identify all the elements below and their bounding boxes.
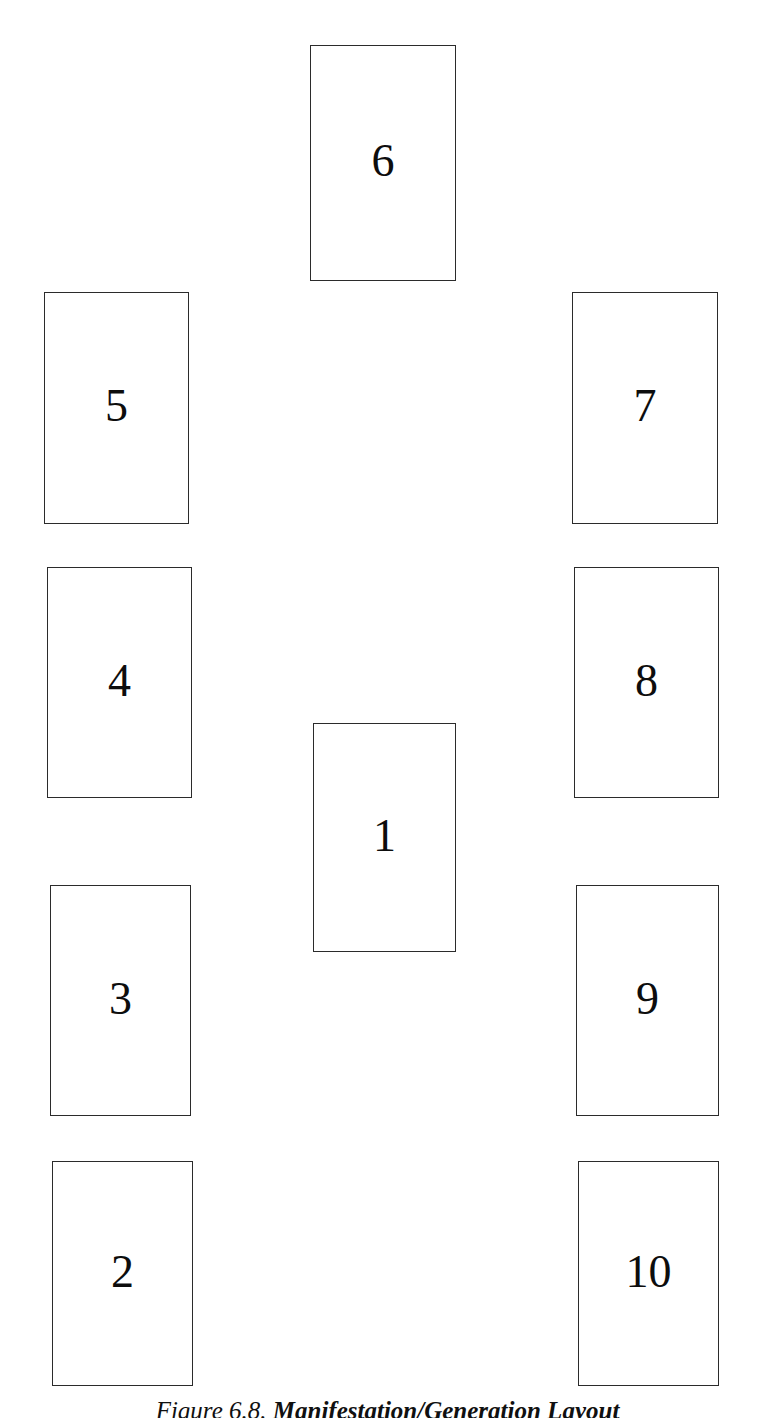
card-position-4[interactable]: 4 (47, 567, 192, 798)
card-number-label: 2 (111, 1249, 134, 1295)
card-position-10[interactable]: 10 (578, 1161, 719, 1386)
card-position-6[interactable]: 6 (310, 45, 456, 281)
card-number-label: 7 (634, 383, 657, 429)
card-position-1[interactable]: 1 (313, 723, 456, 952)
card-number-label: 8 (635, 658, 658, 704)
card-number-label: 1 (373, 813, 396, 859)
card-number-label: 6 (372, 138, 395, 184)
card-position-3[interactable]: 3 (50, 885, 191, 1116)
card-position-8[interactable]: 8 (574, 567, 719, 798)
figure-container: 6 5 7 4 8 1 3 9 2 10 Figure 6.8. Manifes… (0, 0, 775, 1418)
figure-caption-label: Figure 6.8. (156, 1397, 267, 1418)
card-position-9[interactable]: 9 (576, 885, 719, 1116)
card-number-label: 4 (108, 658, 131, 704)
card-number-label: 10 (626, 1249, 672, 1295)
card-position-7[interactable]: 7 (572, 292, 718, 524)
figure-caption-title: Manifestation/Generation Layout (273, 1397, 620, 1418)
card-number-label: 3 (109, 976, 132, 1022)
card-position-2[interactable]: 2 (52, 1161, 193, 1386)
card-number-label: 5 (105, 383, 128, 429)
figure-caption: Figure 6.8. Manifestation/Generation Lay… (0, 1396, 775, 1418)
card-position-5[interactable]: 5 (44, 292, 189, 524)
card-number-label: 9 (636, 976, 659, 1022)
